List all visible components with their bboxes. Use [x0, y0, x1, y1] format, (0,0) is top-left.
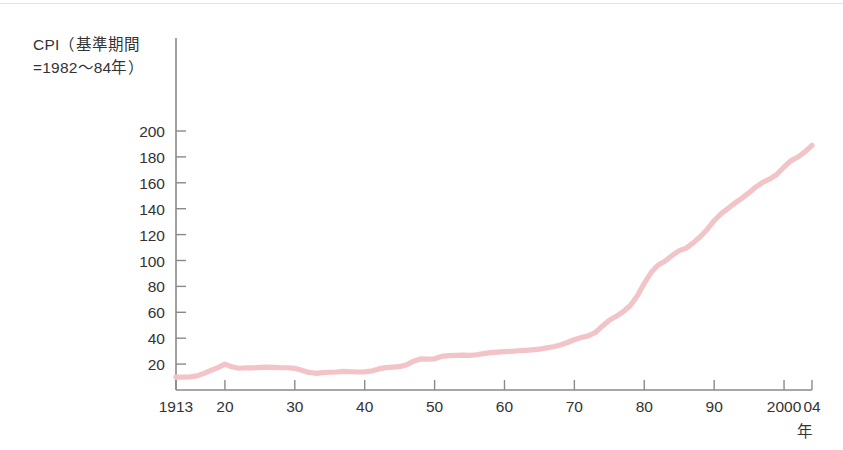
x-tick-label: 70	[566, 398, 584, 415]
data-series-group	[176, 145, 812, 377]
y-tick-label: 120	[139, 227, 165, 244]
x-tick-label: 30	[286, 398, 304, 415]
y-tick-label: 40	[148, 330, 166, 347]
x-tick-label: 20	[216, 398, 234, 415]
x-tick-label: 40	[356, 398, 374, 415]
plot-area: 20406080100120140160180200 1913203040506…	[0, 0, 843, 450]
x-axis-unit-label: 年	[797, 419, 813, 441]
x-tick-label: 90	[706, 398, 724, 415]
y-tick-label: 160	[139, 175, 165, 192]
x-tick-label: 80	[636, 398, 654, 415]
x-tick-label: 2000	[767, 398, 802, 415]
y-tick-label: 60	[148, 304, 166, 321]
axes-group	[176, 38, 812, 390]
x-tick-group: 19132030405060708090200004	[159, 380, 821, 415]
data-line-CPI	[176, 145, 812, 377]
y-tick-label: 20	[148, 356, 166, 373]
y-tick-group: 20406080100120140160180200	[139, 123, 186, 373]
x-tick-label: 60	[496, 398, 514, 415]
cpi-line-chart: CPI（基準期間 =1982〜84年） 20406080100120140160…	[0, 0, 843, 450]
x-tick-label: 50	[426, 398, 444, 415]
x-tick-label: 04	[803, 398, 821, 415]
x-tick-label: 1913	[159, 398, 193, 415]
y-tick-label: 80	[148, 278, 166, 295]
y-tick-label: 180	[139, 149, 165, 166]
y-tick-label: 140	[139, 201, 165, 218]
y-tick-label: 100	[139, 253, 165, 270]
y-tick-label: 200	[139, 123, 165, 140]
